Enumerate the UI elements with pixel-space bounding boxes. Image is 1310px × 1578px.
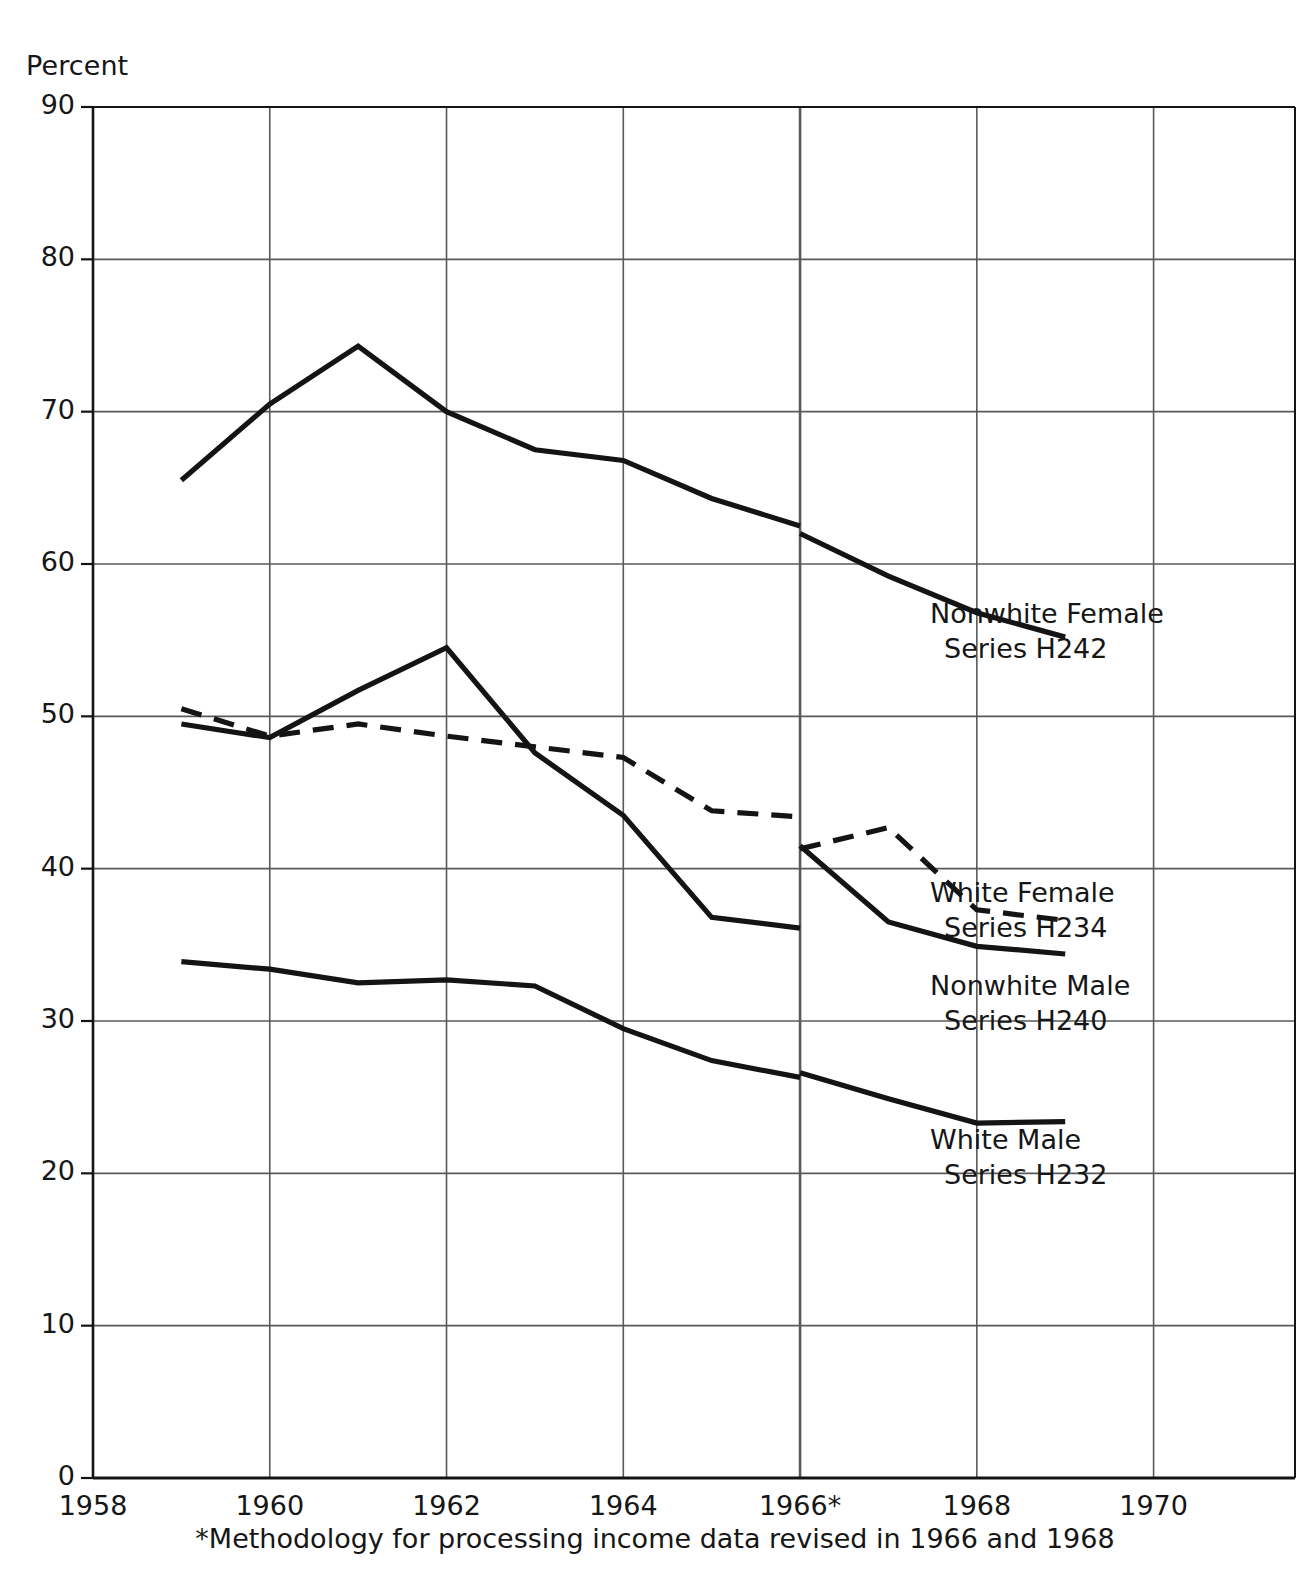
y-tick-label: 50 [13, 698, 75, 729]
y-tick-label: 30 [13, 1003, 75, 1034]
y-tick-label: 40 [13, 851, 75, 882]
series-line-series-h234-seg0 [181, 709, 800, 817]
x-tick-label: 1968 [942, 1490, 1011, 1521]
y-tick-label: 20 [13, 1155, 75, 1186]
series-label-name: Nonwhite Female [930, 596, 1164, 631]
series-line-series-h232-seg1 [800, 1073, 1065, 1123]
y-tick-label: 90 [13, 89, 75, 120]
x-tick-label: 1962 [412, 1490, 481, 1521]
series-label-series-h232: White MaleSeries H232 [930, 1122, 1107, 1192]
y-tick-label: 80 [13, 241, 75, 272]
y-axis-title: Percent [26, 50, 128, 81]
series-label-code: Series H242 [930, 631, 1164, 666]
y-tick-label: 0 [13, 1460, 75, 1491]
series-label-code: Series H232 [930, 1157, 1107, 1192]
y-tick-label: 70 [13, 394, 75, 425]
x-tick-label: 1958 [59, 1490, 128, 1521]
y-tick-label: 10 [13, 1308, 75, 1339]
plot-area [0, 0, 1310, 1578]
series-label-code: Series H234 [930, 910, 1115, 945]
series-line-series-h232-seg0 [181, 962, 800, 1078]
series-label-series-h242: Nonwhite FemaleSeries H242 [930, 596, 1164, 666]
chart-footnote: *Methodology for processing income data … [0, 1523, 1310, 1554]
series-line-series-h240-seg0 [181, 648, 800, 928]
series-line-series-h242-seg0 [181, 346, 800, 526]
x-tick-label: 1960 [235, 1490, 304, 1521]
series-label-name: White Female [930, 875, 1115, 910]
series-label-series-h234: White FemaleSeries H234 [930, 875, 1115, 945]
x-tick-label: 1970 [1119, 1490, 1188, 1521]
x-tick-label: 1966* [759, 1490, 841, 1521]
x-tick-label: 1964 [589, 1490, 658, 1521]
chart-figure: Percent 0102030405060708090 195819601962… [0, 0, 1310, 1578]
y-tick-label: 60 [13, 546, 75, 577]
series-label-series-h240: Nonwhite MaleSeries H240 [930, 968, 1130, 1038]
series-label-code: Series H240 [930, 1003, 1130, 1038]
series-label-name: White Male [930, 1122, 1107, 1157]
series-label-name: Nonwhite Male [930, 968, 1130, 1003]
